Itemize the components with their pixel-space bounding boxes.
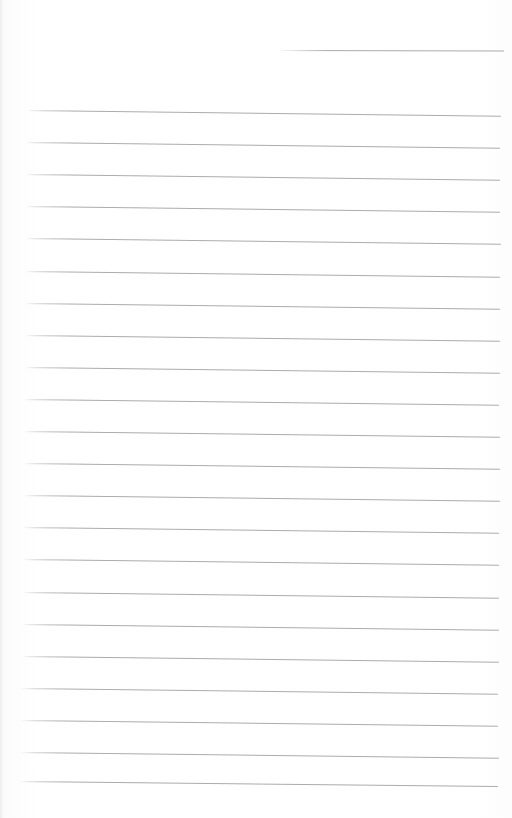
rule-line-3 (27, 174, 500, 181)
rule-line-12 (25, 463, 500, 470)
rule-line-16 (24, 592, 499, 599)
rule-line-21 (21, 752, 498, 759)
rule-line-9 (25, 367, 499, 374)
rule-line-13 (24, 495, 499, 502)
rule-line-4 (27, 206, 500, 213)
rule-line-11 (25, 431, 500, 438)
rule-line-8 (26, 335, 500, 342)
rule-line-2 (27, 142, 500, 149)
rule-line-6 (26, 271, 500, 278)
rule-line-19 (22, 688, 498, 695)
rule-line-15 (24, 559, 499, 566)
rule-line-14 (24, 527, 499, 534)
header-rule-line (281, 50, 504, 51)
rule-line-10 (25, 399, 499, 406)
rule-line-17 (23, 624, 499, 631)
rule-line-7 (26, 303, 500, 310)
rule-line-22 (21, 781, 497, 787)
rule-line-18 (23, 656, 499, 663)
lined-paper-page (0, 0, 512, 818)
rule-line-layer (0, 0, 512, 818)
rule-line-20 (22, 720, 498, 727)
rule-line-1 (27, 110, 500, 117)
rule-line-5 (26, 238, 500, 245)
